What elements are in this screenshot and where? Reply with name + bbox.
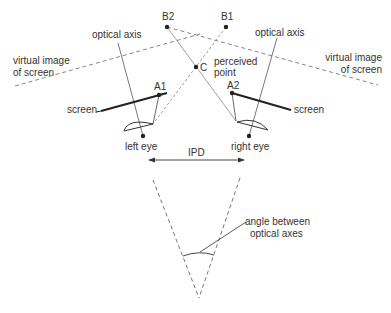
label-angle-1: angle between xyxy=(245,216,310,227)
label-screen-left: screen xyxy=(67,104,97,115)
label-virtual-image-left-2: of screen xyxy=(13,67,54,78)
label-ipd: IPD xyxy=(188,147,205,158)
label-b2: B2 xyxy=(162,11,174,22)
angle-leader xyxy=(200,222,246,252)
label-screen-right: screen xyxy=(294,104,324,115)
optical-axis-right-line xyxy=(249,38,277,136)
lens-left xyxy=(124,122,153,131)
label-a2: A2 xyxy=(227,80,239,91)
label-a1: A1 xyxy=(154,81,166,92)
point-a1 xyxy=(157,93,161,97)
label-optical-axis-left: optical axis xyxy=(92,29,141,40)
point-a2 xyxy=(230,91,234,95)
label-virtual-image-right-1: virtual image xyxy=(318,52,382,63)
label-perceived-point-2: point xyxy=(214,67,236,78)
label-optical-axis-right: optical axis xyxy=(255,27,304,38)
point-b1 xyxy=(224,25,228,29)
angle-arc xyxy=(183,253,214,256)
label-virtual-image-left-1: virtual image xyxy=(13,55,70,66)
point-c xyxy=(194,65,198,69)
optical-axis-v-left xyxy=(153,180,199,298)
screen-right xyxy=(232,93,291,110)
label-right-eye: right eye xyxy=(231,141,269,152)
label-virtual-image-right-2: of screen xyxy=(318,64,382,75)
label-left-eye: left eye xyxy=(125,141,157,152)
left-eye-point xyxy=(141,134,145,138)
right-eye-point xyxy=(247,134,251,138)
label-b1: B1 xyxy=(221,11,233,22)
point-b2 xyxy=(165,25,169,29)
label-angle-2: optical axes xyxy=(250,228,303,239)
optical-axis-v-right xyxy=(199,178,240,298)
label-perceived-point-1: perceived xyxy=(214,56,257,67)
label-c: C xyxy=(200,62,207,73)
